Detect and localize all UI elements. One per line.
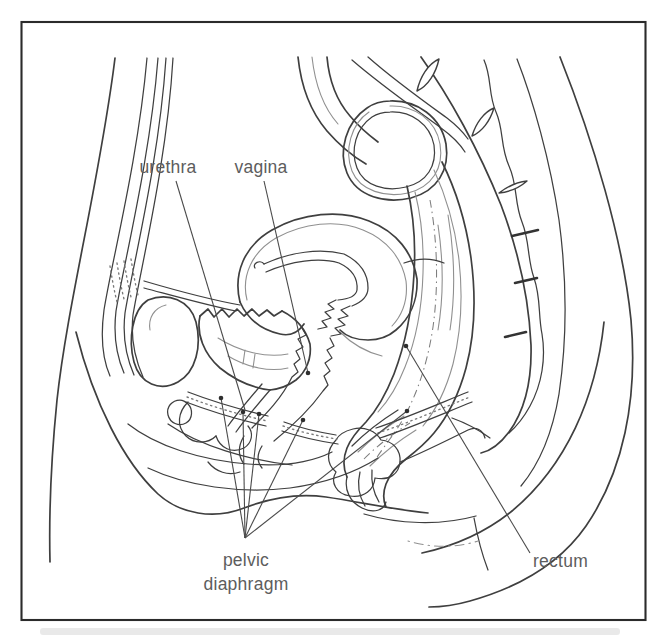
gluteal-fold-lines [364,514,488,570]
label-urethra: urethra [139,157,196,177]
abdominal-wall-lines [50,58,173,562]
label-pelvic-diaphragm: pelvic diaphragm [204,550,289,594]
pelvis-sagittal-diagram: urethra vagina pelvic diaphragm rectum [0,0,660,642]
svg-text:diaphragm: diaphragm [204,574,289,594]
peritoneal-fold [144,281,240,311]
scan-smudge [40,628,620,635]
scanned-book-figure: urethra vagina pelvic diaphragm rectum [0,0,660,642]
label-vagina: vagina [234,157,287,177]
descending-colon [298,57,468,164]
label-rectum: rectum [533,551,588,571]
buttock-outline [422,57,633,607]
sigmoid-colon-loop [343,101,446,200]
intervertebral-discs [417,59,538,337]
urethra-tube [228,384,270,432]
pelvic-bone-outlines [128,402,485,496]
rectum-mucosa-lines [374,170,461,462]
leader-lines-pelvic-diaphragm [221,398,407,538]
vagina-walls [252,328,334,441]
svg-text:pelvic: pelvic [223,550,269,570]
uterine-cavity [254,251,368,306]
leader-line-rectum [406,346,530,553]
leader-line-vagina [264,181,308,373]
uterus-outline [238,214,417,356]
cervix-zigzag [318,300,350,336]
